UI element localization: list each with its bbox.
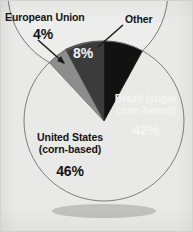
slice-label-united-states-line2: (corn-based)	[28, 144, 112, 156]
slice-value-other: 8%	[73, 46, 93, 61]
slice-label-other: Other	[125, 14, 153, 26]
slice-value-united-states: 46%	[28, 164, 112, 179]
slice-label-united-states: United States (corn-based)	[28, 132, 112, 155]
slice-value-brazil: 42%	[107, 123, 185, 138]
pie-chart-figure: European Union 4% Other 8% Brazil (sugar…	[0, 0, 193, 232]
slice-label-brazil: Brazil (sugar cane-based)	[107, 93, 185, 116]
slice-label-brazil-line1: Brazil (sugar	[107, 93, 185, 105]
slice-value-european-union: 4%	[33, 27, 53, 42]
pie-drop-shadow	[52, 204, 156, 218]
pie-chart-canvas	[1, 1, 193, 232]
slice-label-united-states-line1: United States	[28, 132, 112, 144]
slice-label-european-union: European Union	[5, 12, 85, 24]
slice-label-brazil-line2: cane-based)	[107, 105, 185, 117]
